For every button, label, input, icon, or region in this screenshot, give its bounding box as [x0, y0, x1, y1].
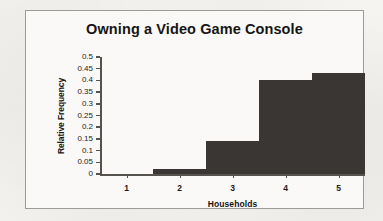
x-tick-label: 2 [177, 183, 182, 193]
y-tick-label: 0.15 [77, 135, 96, 143]
y-tick-label: 0.2 [82, 123, 96, 131]
x-tick-mark [127, 174, 129, 178]
y-tick-mark [96, 162, 100, 164]
y-tick-mark [96, 150, 100, 152]
chart-frame: Owning a Video Game Console 0.50.450.40.… [25, 10, 364, 209]
y-tick-label: 0.4 [82, 76, 96, 84]
x-axis-title: Households [100, 199, 365, 209]
x-tick-mark [180, 174, 182, 178]
y-tick-label: 0.35 [77, 88, 96, 96]
x-tick-label: 5 [336, 183, 341, 193]
y-tick-mark [96, 103, 100, 105]
x-tick-label: 1 [124, 183, 129, 193]
y-tick-mark [96, 91, 100, 93]
y-tick-mark [96, 56, 100, 58]
y-tick-label: 0.05 [77, 158, 96, 166]
y-tick-label: 0 [89, 170, 96, 178]
bar [206, 141, 259, 174]
y-tick-mark [96, 126, 100, 128]
x-tick-label: 4 [283, 183, 288, 193]
y-tick-label: 0.25 [77, 112, 96, 120]
y-axis-title: Relative Frequency [56, 57, 68, 175]
y-tick-label: 0.5 [82, 53, 96, 61]
y-tick-label: 0.1 [82, 147, 96, 155]
x-tick-label: 3 [230, 183, 235, 193]
y-axis-line [100, 57, 102, 175]
y-tick-label: 0.3 [82, 100, 96, 108]
y-tick-mark [96, 173, 100, 175]
y-tick-label: 0.45 [77, 65, 96, 73]
y-tick-mark [96, 115, 100, 117]
bar [153, 169, 206, 174]
x-tick-mark [339, 174, 341, 178]
bar [259, 80, 312, 174]
x-tick-mark [233, 174, 235, 178]
y-tick-mark [96, 138, 100, 140]
chart-title: Owning a Video Game Console [26, 21, 363, 37]
y-tick-mark [96, 80, 100, 82]
bar [312, 73, 365, 174]
x-tick-mark [286, 174, 288, 178]
y-tick-mark [96, 68, 100, 70]
